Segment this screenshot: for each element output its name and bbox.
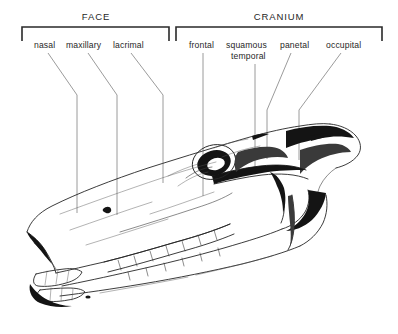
- upper-incisor-div-1: [45, 271, 47, 285]
- lower-tooth-div-2: [146, 268, 148, 276]
- group-bracket-face: FACE: [22, 11, 169, 41]
- lower-incisor-div-2: [61, 288, 62, 301]
- skull-mandible-upper-border: [62, 229, 282, 286]
- leader-line-lacrimal: [131, 53, 163, 183]
- figure-canvas: FACE CRANIUM nasal maxillary lacrimal fr…: [0, 0, 398, 334]
- label-parietal: panetal: [280, 40, 309, 50]
- skull-mandible-lower-border: [60, 246, 300, 296]
- skull-cranium-accent-1: [252, 134, 269, 140]
- label-temporal: temporal: [231, 51, 266, 61]
- label-lacrimal: lacrimal: [113, 40, 144, 50]
- skull-mandible-hatch-1: [100, 277, 188, 293]
- skull-condyle-dark: [270, 172, 285, 213]
- label-squamous: squamous: [226, 40, 267, 50]
- upper-tooth-div-1: [118, 260, 121, 270]
- skull-face-hatch-2: [86, 219, 168, 245]
- upper-incisor-div-2: [56, 270, 58, 284]
- skull-nasal-suture: [60, 162, 216, 214]
- skull-nasal-shadow: [27, 232, 52, 264]
- cranium-bracket-path: [176, 27, 382, 41]
- anatomical-figure: FACE CRANIUM nasal maxillary lacrimal fr…: [0, 0, 398, 334]
- leader-line-nasal: [48, 53, 77, 213]
- upper-tooth-div-5: [182, 241, 185, 251]
- upper-tooth-div-7: [214, 230, 217, 240]
- group-title-cranium: CRANIUM: [254, 11, 305, 22]
- part-labels: nasal maxillary lacrimal frontal squamou…: [34, 40, 361, 61]
- skull-dorsal-profile: [27, 124, 330, 232]
- skull-maxilla-ventral: [56, 224, 230, 273]
- label-nasal: nasal: [34, 40, 55, 50]
- skull-mental-foramen: [85, 295, 90, 298]
- lower-incisor-div-1: [50, 288, 51, 301]
- skull-facial-crest: [120, 193, 232, 232]
- label-maxillary: maxillary: [66, 40, 102, 50]
- lower-tooth-div-1: [128, 272, 130, 280]
- skull-frontal-texture-1: [214, 139, 248, 148]
- group-title-face: FACE: [82, 11, 110, 22]
- lower-tooth-div-3: [164, 263, 166, 271]
- upper-tooth-div-3: [150, 251, 153, 261]
- skull-temporal-shading: [300, 144, 351, 174]
- upper-tooth-row-bottom: [108, 234, 234, 272]
- leader-line-maxillary: [88, 53, 117, 215]
- upper-incisor-div-3: [67, 270, 69, 282]
- group-bracket-cranium: CRANIUM: [176, 11, 382, 41]
- label-frontal: frontal: [189, 40, 214, 50]
- label-occipital: occupital: [326, 40, 361, 50]
- upper-tooth-div-4: [166, 246, 169, 256]
- skull-infraorbital-foramen: [103, 207, 111, 214]
- skull-face-hatch-3: [150, 192, 214, 214]
- upper-tooth-div-6: [198, 235, 201, 245]
- face-bracket-path: [22, 27, 169, 41]
